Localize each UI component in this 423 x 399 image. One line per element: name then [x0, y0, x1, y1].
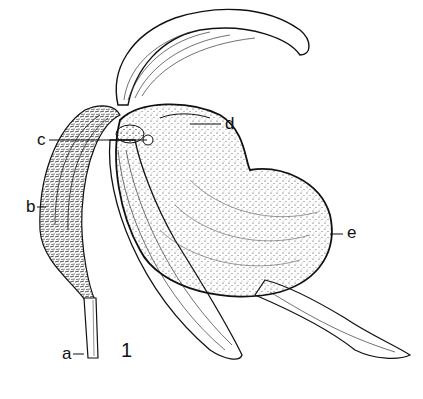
label-c: c: [37, 131, 46, 148]
figure-number: 1: [121, 340, 132, 360]
label-b: b: [26, 198, 35, 215]
label-a: a: [62, 345, 71, 362]
upper-sepal: [116, 9, 309, 105]
orchid-illustration: [0, 0, 423, 399]
label-d: d: [225, 115, 234, 132]
label-e: e: [347, 224, 356, 241]
ovary: [40, 106, 120, 300]
pedicel: [84, 298, 98, 358]
